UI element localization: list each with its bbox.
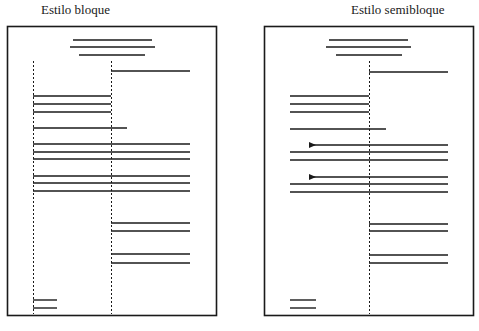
semiblock-style-page	[265, 27, 474, 316]
indent-arrow-icon	[309, 142, 316, 148]
letter-format-diagram	[0, 0, 479, 331]
block-style-page	[8, 27, 217, 316]
letterhead	[70, 40, 155, 55]
letterhead	[326, 40, 411, 55]
indent-arrow-icon	[309, 174, 316, 180]
